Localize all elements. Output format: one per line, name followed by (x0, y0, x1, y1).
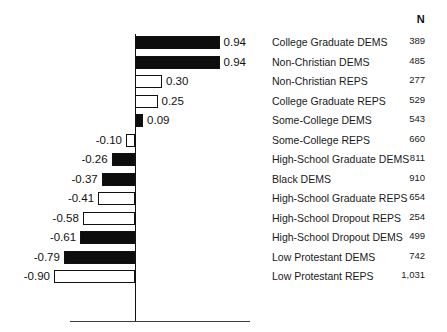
bar-value-label: 0.94 (224, 36, 246, 49)
category-label: Non-Christian REPS (272, 74, 368, 88)
bar-row: -0.90 (0, 268, 270, 288)
bar-row: -0.37 (0, 171, 270, 191)
sample-size-value: 389 (382, 34, 425, 48)
bar-row: -0.10 (0, 132, 270, 152)
bar (126, 134, 135, 147)
sample-size-value: 910 (382, 171, 425, 185)
category-label: College Graduate REPS (272, 94, 386, 108)
bar (135, 36, 220, 49)
bar-row: -0.41 (0, 190, 270, 210)
bar-row: 0.30 (0, 73, 270, 93)
n-column-header: N (395, 13, 425, 25)
bar-value-label: -0.10 (0, 134, 122, 147)
bar (135, 114, 143, 127)
legend-row: Some-College REPS660 (272, 132, 447, 152)
bar-row: -0.26 (0, 151, 270, 171)
bar-chart-plot-area: 0.940.940.300.250.09-0.10-0.26-0.37-0.41… (0, 0, 270, 332)
bar-value-label: -0.37 (0, 173, 98, 186)
bar (54, 270, 135, 283)
bar (102, 173, 135, 186)
bar-value-label: -0.41 (0, 192, 94, 205)
category-label: Some-College REPS (272, 133, 370, 147)
bar-row: 0.09 (0, 112, 270, 132)
chart-page: N 0.940.940.300.250.09-0.10-0.26-0.37-0.… (0, 0, 447, 332)
legend-row: College Graduate DEMS389 (272, 34, 447, 54)
bar-value-label: 0.25 (162, 95, 184, 108)
category-label: Low Protestant DEMS (272, 250, 375, 264)
bar (135, 56, 220, 69)
bar-row: -0.61 (0, 229, 270, 249)
category-label: Black DEMS (272, 172, 331, 186)
sample-size-value: 277 (382, 73, 425, 87)
bar (135, 75, 162, 88)
sample-size-value: 654 (382, 190, 425, 204)
bar (83, 212, 135, 225)
sample-size-value: 811 (382, 151, 425, 165)
legend-row: High-School Dropout REPS254 (272, 210, 447, 230)
category-label: Some-College DEMS (272, 113, 372, 127)
legend-row: Black DEMS910 (272, 171, 447, 191)
sample-size-value: 485 (382, 54, 425, 68)
category-label: Non-Christian DEMS (272, 55, 369, 69)
sample-size-value: 543 (382, 112, 425, 126)
legend-row: Low Protestant DEMS742 (272, 249, 447, 269)
bar-value-label: 0.09 (147, 114, 169, 127)
bar-value-label: 0.30 (166, 75, 188, 88)
bar (98, 192, 135, 205)
legend-row: Low Protestant REPS1,031 (272, 268, 447, 288)
category-label: Low Protestant REPS (272, 269, 374, 283)
bar-row: 0.25 (0, 93, 270, 113)
sample-size-value: 742 (382, 249, 425, 263)
bar-row: -0.58 (0, 210, 270, 230)
bar-row: -0.79 (0, 249, 270, 269)
bar-value-label: -0.61 (0, 231, 76, 244)
bar (64, 251, 135, 264)
sample-size-value: 254 (382, 210, 425, 224)
bar (112, 153, 135, 166)
sample-size-value: 529 (382, 93, 425, 107)
bar (135, 95, 158, 108)
legend-row: High-School Graduate REPS654 (272, 190, 447, 210)
bar-value-label: -0.26 (0, 153, 108, 166)
bar-value-label: -0.90 (0, 270, 50, 283)
legend-row: College Graduate REPS529 (272, 93, 447, 113)
sample-size-value: 1,031 (382, 268, 425, 282)
legend-row: High-School Graduate DEMS811 (272, 151, 447, 171)
baseline-axis-rule (70, 321, 250, 322)
legend-row: Some-College DEMS543 (272, 112, 447, 132)
legend-row: Non-Christian DEMS485 (272, 54, 447, 74)
sample-size-value: 660 (382, 132, 425, 146)
bar-value-label: 0.94 (224, 56, 246, 69)
bar-row: 0.94 (0, 34, 270, 54)
category-label: College Graduate DEMS (272, 35, 388, 49)
legend-row: Non-Christian REPS277 (272, 73, 447, 93)
bar-value-label: -0.79 (0, 251, 60, 264)
bar (80, 231, 135, 244)
bar-row: 0.94 (0, 54, 270, 74)
legend-row: High-School Dropout DEMS499 (272, 229, 447, 249)
sample-size-value: 499 (382, 229, 425, 243)
bar-value-label: -0.58 (0, 212, 79, 225)
